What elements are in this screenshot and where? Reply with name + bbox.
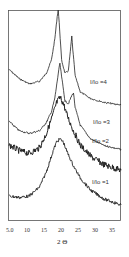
xrd-chart: I/Io =4 I/Io =3 I/Io =2 I/Io =1 5.0 10 1… xyxy=(0,0,129,257)
label-io-2: I/Io =2 xyxy=(92,138,110,144)
label-io-3: I/Io =3 xyxy=(93,119,111,125)
series-lines xyxy=(9,10,121,205)
x-tick: 15 xyxy=(41,227,47,233)
plot-frame xyxy=(9,11,121,221)
curve-io-2 xyxy=(9,96,121,172)
curve-io-1 xyxy=(9,138,121,205)
x-tick: 25 xyxy=(75,227,81,233)
x-axis-label: 2 Θ xyxy=(57,238,67,246)
x-axis-ticks: 5.0 10 15 20 25 30 35 xyxy=(6,227,115,233)
x-tick: 5.0 xyxy=(6,227,14,233)
x-tick: 20 xyxy=(58,227,64,233)
label-io-4: I/Io =4 xyxy=(90,79,108,85)
label-io-1: I/Io =1 xyxy=(92,179,110,185)
x-tick: 30 xyxy=(92,227,98,233)
curve-io-4 xyxy=(9,10,121,105)
x-tick: 10 xyxy=(24,227,30,233)
x-tick: 35 xyxy=(109,227,115,233)
